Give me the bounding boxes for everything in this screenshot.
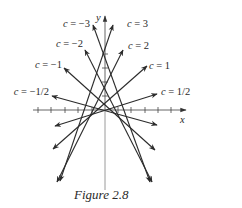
y-axis-label: y <box>95 12 101 23</box>
line-label: c = −3 <box>63 18 90 29</box>
line-label: c = 3 <box>127 18 148 29</box>
line-label: c = −2 <box>56 38 83 49</box>
line-label: c = −1 <box>35 59 62 70</box>
x-axis-label: x <box>179 114 185 125</box>
line-label: c = 2 <box>128 40 149 51</box>
figure-2-8-diagram: x y c = 3c = −3c = 2c = −2c = 1c = −1c =… <box>0 0 242 208</box>
line-label: c = 1 <box>149 60 170 71</box>
line-label: c = −1/2 <box>14 86 49 97</box>
figure-caption: Figure 2.8 <box>73 187 129 202</box>
line-label: c = 1/2 <box>161 86 190 97</box>
